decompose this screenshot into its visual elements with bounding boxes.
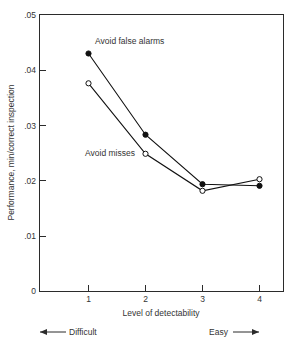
data-point-misses-3 bbox=[200, 188, 205, 193]
y-tick-label-0.01: .01 bbox=[24, 231, 36, 241]
series-avoid-misses bbox=[86, 81, 262, 194]
plot-frame bbox=[40, 15, 284, 292]
x-tick-label-4: 4 bbox=[257, 294, 262, 304]
chart-figure: .05 .04 .03 .02 .01 0 Performance, min/c… bbox=[0, 0, 295, 342]
difficulty-scale-annotation: Difficult Easy bbox=[40, 327, 259, 337]
y-tick-label-0: 0 bbox=[31, 286, 36, 296]
difficult-label: Difficult bbox=[69, 327, 97, 337]
x-axis-ticks bbox=[89, 285, 260, 291]
data-point-misses-4 bbox=[257, 177, 262, 182]
arrow-right-icon bbox=[252, 329, 259, 335]
performance-vs-detectability-line-chart: .05 .04 .03 .02 .01 0 Performance, min/c… bbox=[0, 0, 295, 342]
x-tick-label-3: 3 bbox=[200, 294, 205, 304]
data-point-false-alarms-3 bbox=[200, 182, 205, 187]
data-point-misses-2 bbox=[143, 151, 148, 156]
x-tick-label-2: 2 bbox=[143, 294, 148, 304]
y-axis-ticks bbox=[40, 15, 46, 292]
y-axis-title: Performance, min/correct inspection bbox=[6, 84, 16, 220]
x-axis-tick-labels: 1 2 3 4 bbox=[86, 294, 262, 304]
x-axis-title: Level of detectability bbox=[122, 308, 200, 318]
y-tick-label-0.04: .04 bbox=[24, 65, 36, 75]
data-point-false-alarms-2 bbox=[143, 132, 148, 137]
x-tick-label-1: 1 bbox=[86, 294, 91, 304]
y-tick-label-0.05: .05 bbox=[24, 10, 36, 20]
annotation-avoid-false-alarms: Avoid false alarms bbox=[95, 36, 164, 46]
y-tick-label-0.02: .02 bbox=[24, 176, 36, 186]
series-avoid-false-alarms bbox=[86, 51, 262, 189]
data-point-false-alarms-4 bbox=[257, 183, 262, 188]
y-tick-label-0.03: .03 bbox=[24, 121, 36, 131]
annotation-avoid-misses: Avoid misses bbox=[85, 148, 135, 158]
arrow-left-icon bbox=[40, 329, 47, 335]
series-line-avoid-misses bbox=[89, 83, 260, 191]
y-axis-tick-labels: .05 .04 .03 .02 .01 0 bbox=[24, 10, 36, 297]
easy-label: Easy bbox=[209, 327, 229, 337]
data-point-misses-1 bbox=[86, 81, 91, 86]
data-point-false-alarms-1 bbox=[86, 51, 91, 56]
series-line-avoid-false-alarms bbox=[89, 54, 260, 186]
